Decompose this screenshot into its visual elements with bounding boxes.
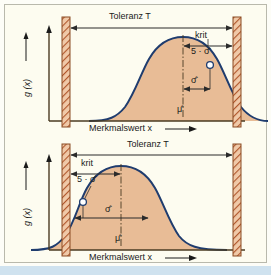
x-axis-label-arrow-top — [189, 126, 197, 132]
figure-frame: g (x) Toleranz T krit 5 · σ̂ σ̂ μ̂ Merkm… — [4, 4, 267, 263]
mu-label-top: μ̂ — [177, 104, 182, 114]
figure-container: g (x) Toleranz T krit 5 · σ̂ σ̂ μ̂ Merkm… — [0, 0, 271, 275]
panel-bottom: g (x) Toleranz T krit 5 · σ̂ σ̂ μ̂ Merkm… — [5, 134, 268, 263]
y-axis-label-arrow-bottom — [24, 161, 29, 168]
y-axis-arrow-bottom — [46, 154, 52, 162]
y-axis-label-bottom: g (x) — [22, 208, 32, 226]
x-axis-label-arrow-bottom — [189, 255, 197, 261]
tolerance-label-bottom: Toleranz T — [127, 139, 169, 149]
panel-top-plot — [5, 5, 268, 134]
y-axis-label-top: g (x) — [22, 79, 32, 97]
inflection-marker-top — [207, 62, 214, 69]
krit-label-bottom: krit — [81, 158, 93, 168]
panel-top: g (x) Toleranz T krit 5 · σ̂ σ̂ μ̂ Merkm… — [5, 5, 268, 134]
tolerance-limit-upper-bar-top — [233, 17, 241, 127]
sigma-label-top: σ̂ — [191, 75, 197, 85]
x-axis-label-bottom: Merkmalswert x — [89, 252, 152, 262]
inflection-marker-bottom — [80, 199, 87, 206]
krit-value-label-top: 5 · σ̂ — [191, 46, 210, 56]
tolerance-limit-lower-bar-bottom — [62, 144, 70, 256]
tolerance-label-top: Toleranz T — [109, 11, 151, 21]
tolerance-limit-lower-bar-top — [62, 17, 70, 127]
krit-label-top: krit — [195, 30, 207, 40]
y-axis-arrow-top — [46, 25, 52, 33]
sigma-label-bottom: σ̂ — [105, 204, 111, 214]
tolerance-limit-upper-bar-bottom — [233, 144, 241, 256]
panel-bottom-plot — [5, 134, 268, 264]
mu-label-bottom: μ̂ — [115, 233, 120, 243]
y-axis-label-arrow-top — [24, 32, 29, 39]
krit-value-label-bottom: 5 · σ̂ — [77, 174, 96, 184]
x-axis-label-top: Merkmalswert x — [89, 123, 152, 133]
bottom-strip — [0, 266, 271, 275]
